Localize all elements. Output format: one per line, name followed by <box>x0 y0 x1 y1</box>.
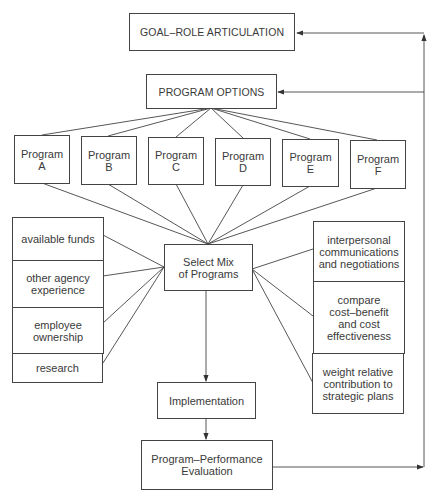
program-a-box: Program A <box>14 135 70 184</box>
factor-research: research <box>12 353 103 383</box>
program-options-box: PROGRAM OPTIONS <box>146 74 277 109</box>
implementation-box: Implementation <box>157 382 256 419</box>
program-b-box: Program B <box>81 136 137 185</box>
factor-weight-relative-contribution: weight relative contribution to strategi… <box>312 353 404 414</box>
factor-available-funds: available funds <box>12 217 104 261</box>
factor-compare-cost-benefit: compare cost–benefit and cost effectiven… <box>313 281 405 354</box>
program-d-box: Program D <box>215 138 271 186</box>
select-mix-box: Select Mix of Programs <box>164 244 253 291</box>
factor-employee-ownership: employee ownership <box>12 307 104 354</box>
goal-role-articulation-box: GOAL–ROLE ARTICULATION <box>129 13 295 51</box>
factor-other-agency-experience: other agency experience <box>12 260 104 308</box>
program-performance-evaluation-box: Program–Performance Evaluation <box>141 440 273 490</box>
program-c-box: Program C <box>148 137 204 185</box>
factor-interpersonal-communications: interpersonal communications and negotia… <box>313 221 405 282</box>
program-e-box: Program E <box>282 139 339 187</box>
program-f-box: Program F <box>350 140 406 189</box>
